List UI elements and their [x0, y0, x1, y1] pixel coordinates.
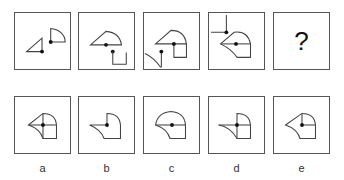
panel-3-figure: [144, 13, 199, 69]
option-c-figure: [144, 97, 199, 153]
option-a-figure: [15, 97, 70, 153]
option-d-label: d: [208, 162, 265, 174]
option-d[interactable]: [208, 96, 265, 154]
option-b-label: b: [78, 162, 135, 174]
sequence-panel-4: [208, 12, 265, 70]
option-a-label: a: [14, 162, 71, 174]
option-e-figure: [274, 97, 329, 153]
panel-1-figure: [15, 13, 70, 69]
option-c[interactable]: [143, 96, 200, 154]
option-e[interactable]: [273, 96, 330, 154]
option-b[interactable]: [78, 96, 135, 154]
sequence-panel-3: [143, 12, 200, 70]
question-mark: ?: [274, 13, 329, 69]
sequence-panel-1: [14, 12, 71, 70]
sequence-panel-question: ?: [273, 12, 330, 70]
option-a[interactable]: [14, 96, 71, 154]
option-d-figure: [209, 97, 264, 153]
option-e-label: e: [273, 162, 330, 174]
panel-4-figure: [209, 13, 264, 69]
option-c-label: c: [143, 162, 200, 174]
panel-2-figure: [79, 13, 134, 69]
option-b-figure: [79, 97, 134, 153]
sequence-panel-2: [78, 12, 135, 70]
